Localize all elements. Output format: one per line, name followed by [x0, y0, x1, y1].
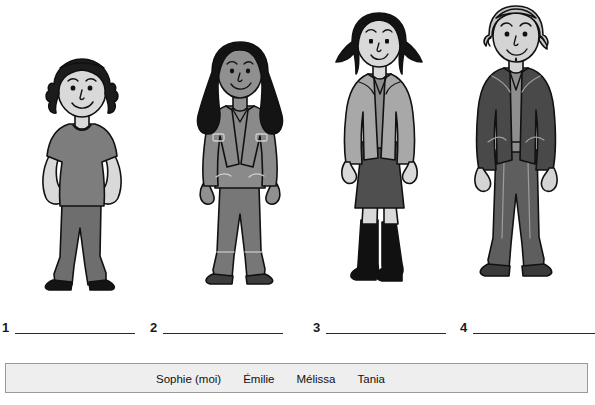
word-bank-item[interactable]: Émilie [243, 373, 274, 385]
answer-number-1: 1 [2, 321, 9, 334]
answer-lines-row: 1 2 3 4 [0, 312, 595, 338]
figure-2-illustration [186, 36, 294, 290]
answer-number-3: 3 [313, 321, 320, 334]
answer-item-1[interactable]: 1 [2, 312, 135, 334]
answer-item-4[interactable]: 4 [460, 312, 595, 334]
word-bank-list: Sophie (moi) Émilie Mélissa Tania [156, 364, 407, 394]
figure-4-illustration [458, 2, 574, 290]
worksheet-canvas: 1 2 3 4 Sophie (moi) Émilie Mélissa Tani… [0, 0, 595, 405]
answer-blank-2[interactable] [163, 320, 283, 334]
answer-number-2: 2 [150, 321, 157, 334]
figure-3-illustration [326, 10, 432, 290]
figure-4-tania[interactable] [458, 2, 574, 290]
figure-1-sophie[interactable] [22, 52, 142, 292]
answer-blank-4[interactable] [473, 320, 595, 334]
word-bank: Sophie (moi) Émilie Mélissa Tania [5, 363, 588, 393]
answer-item-3[interactable]: 3 [313, 312, 446, 334]
word-bank-item[interactable]: Tania [358, 373, 386, 385]
answer-blank-1[interactable] [15, 320, 135, 334]
answer-number-4: 4 [460, 321, 467, 334]
figure-3-melissa[interactable] [326, 10, 432, 290]
word-bank-item[interactable]: Mélissa [297, 373, 336, 385]
figure-1-illustration [22, 52, 142, 292]
answer-item-2[interactable]: 2 [150, 312, 283, 334]
word-bank-item[interactable]: Sophie (moi) [156, 373, 221, 385]
figure-2-emilie[interactable] [186, 36, 294, 290]
answer-blank-3[interactable] [326, 320, 446, 334]
